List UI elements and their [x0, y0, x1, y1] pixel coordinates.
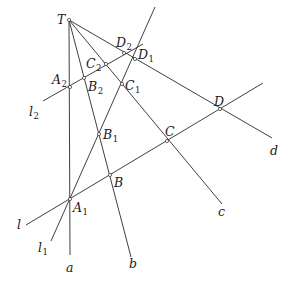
label-A2: A2 — [51, 72, 67, 89]
point-B2 — [82, 76, 85, 79]
point-B — [108, 173, 111, 176]
label-d: d — [270, 143, 278, 158]
point-A1 — [68, 197, 71, 200]
point-C2 — [104, 62, 107, 65]
projective-diagram: TA1A2BB1B2CC1C2DD1D2abcdll1l2 — [0, 0, 290, 286]
label-l: l — [17, 217, 21, 232]
point-B1 — [97, 132, 100, 135]
point-C1 — [120, 82, 123, 85]
label-B: B — [113, 175, 123, 190]
lines-group — [26, 7, 272, 257]
point-C — [165, 139, 168, 142]
label-l1: l1 — [38, 240, 48, 257]
point-A2 — [68, 85, 71, 88]
label-B2: B2 — [87, 79, 103, 96]
label-D1: D1 — [137, 47, 154, 64]
point-D2 — [122, 51, 125, 54]
label-C2: C2 — [86, 56, 102, 73]
pencil-line-a — [69, 20, 70, 255]
transversal-line-l1 — [51, 7, 155, 241]
pencil-line-d — [69, 20, 272, 138]
label-C1: C1 — [125, 78, 141, 95]
label-D2: D2 — [115, 35, 132, 52]
label-B1: B1 — [102, 127, 118, 144]
label-b: b — [129, 256, 137, 271]
labels-group: TA1A2BB1B2CC1C2DD1D2abcdll1l2 — [17, 12, 278, 275]
label-l2: l2 — [29, 104, 39, 121]
pencil-line-b — [69, 20, 131, 257]
label-A1: A1 — [72, 200, 88, 217]
label-C: C — [165, 124, 175, 139]
label-D: D — [213, 94, 224, 109]
label-T: T — [57, 12, 67, 27]
label-c: c — [218, 204, 225, 219]
label-a: a — [66, 260, 73, 275]
point-T — [67, 18, 70, 21]
point-D1 — [133, 57, 136, 60]
transversal-line-l — [26, 83, 263, 225]
